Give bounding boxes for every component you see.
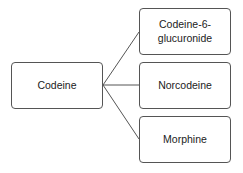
node-label: Codeine <box>37 79 76 92</box>
node-label: Norcodeine <box>158 79 212 92</box>
node-codeine: Codeine <box>11 62 103 109</box>
node-codeine-6-glucuronide: Codeine-6- glucuronide <box>139 8 231 55</box>
node-morphine: Morphine <box>139 116 231 163</box>
node-label: Morphine <box>163 133 207 146</box>
node-norcodeine: Norcodeine <box>139 62 231 109</box>
node-label: Codeine-6- glucuronide <box>158 18 212 44</box>
